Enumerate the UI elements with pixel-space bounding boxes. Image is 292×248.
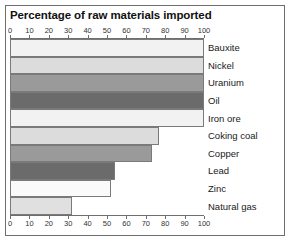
bar-coking-coal <box>10 127 159 145</box>
axis-tick-label: 90 <box>180 26 188 35</box>
bar-zinc <box>10 180 111 198</box>
axis-tick-label: 30 <box>64 219 72 228</box>
axis-tick-label: 10 <box>25 219 33 228</box>
chart-frame: Percentage of raw materials imported 010… <box>5 5 285 236</box>
axis-tick-label: 100 <box>198 219 211 228</box>
category-label-lead: Lead <box>208 162 284 180</box>
axis-tick-label: 10 <box>25 26 33 35</box>
bar-oil <box>10 92 204 110</box>
axis-tick-label: 90 <box>180 219 188 228</box>
axis-tick-label: 100 <box>198 26 211 35</box>
bar-uranium <box>10 74 204 92</box>
bar-row <box>10 162 204 180</box>
axis-tick-label: 0 <box>8 26 12 35</box>
category-label-coking-coal: Coking coal <box>208 127 284 145</box>
axis-tick-label: 20 <box>45 26 53 35</box>
axis-tick-label: 60 <box>122 26 130 35</box>
axis-tick-label: 40 <box>83 219 91 228</box>
axis-tick <box>68 35 69 38</box>
axis-tick <box>10 35 11 38</box>
category-label-uranium: Uranium <box>208 74 284 92</box>
bar-row <box>10 197 204 215</box>
axis-tick <box>126 35 127 38</box>
bar-natural-gas <box>10 197 72 215</box>
category-label-bauxite: Bauxite <box>208 39 284 57</box>
chart-title: Percentage of raw materials imported <box>10 9 212 21</box>
bar-row <box>10 127 204 145</box>
axis-tick-label: 30 <box>64 26 72 35</box>
axis-tick <box>204 35 205 38</box>
x-axis-bottom: 0102030405060708090100 <box>6 215 286 228</box>
bar-row <box>10 57 204 75</box>
bar-row <box>10 39 204 57</box>
bar-row <box>10 74 204 92</box>
axis-tick <box>107 35 108 38</box>
bar-row <box>10 109 204 127</box>
axis-tick-label: 40 <box>83 26 91 35</box>
axis-tick-label: 70 <box>142 219 150 228</box>
bar-row <box>10 145 204 163</box>
category-label-nickel: Nickel <box>208 57 284 75</box>
axis-tick-label: 80 <box>161 219 169 228</box>
axis-tick-label: 60 <box>122 219 130 228</box>
category-label-copper: Copper <box>208 145 284 163</box>
category-label-column: BauxiteNickelUraniumOilIron oreCoking co… <box>208 39 284 215</box>
category-label-zinc: Zinc <box>208 180 284 198</box>
axis-tick <box>165 35 166 38</box>
bar-copper <box>10 145 152 163</box>
axis-tick-label: 50 <box>103 26 111 35</box>
axis-tick-label: 20 <box>45 219 53 228</box>
category-label-oil: Oil <box>208 92 284 110</box>
bar-bauxite <box>10 39 204 57</box>
axis-tick-label: 50 <box>103 219 111 228</box>
axis-tick <box>146 35 147 38</box>
category-label-iron-ore: Iron ore <box>208 109 284 127</box>
axis-tick <box>185 35 186 38</box>
x-axis-top: 0102030405060708090100 <box>6 26 286 39</box>
category-label-natural-gas: Natural gas <box>208 197 284 215</box>
axis-tick <box>88 35 89 38</box>
axis-tick <box>29 35 30 38</box>
plot-area <box>10 39 204 215</box>
axis-tick-label: 70 <box>142 26 150 35</box>
bar-iron-ore <box>10 109 204 127</box>
axis-tick <box>49 35 50 38</box>
axis-tick-label: 80 <box>161 26 169 35</box>
bar-lead <box>10 162 115 180</box>
bar-nickel <box>10 57 204 75</box>
bar-row <box>10 92 204 110</box>
bar-row <box>10 180 204 198</box>
axis-tick-label: 0 <box>8 219 12 228</box>
